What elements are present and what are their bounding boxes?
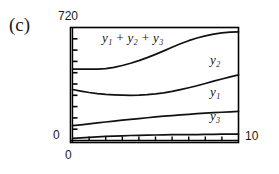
curve-label-sum: y₁ + y₂ + y₃ <box>102 30 163 46</box>
figure-panel-c: (c) 720 0 0 10 y₁ + y₂ + y₃ y₂ y₁ y₃ <box>0 0 279 174</box>
curve-label-y1: y₁ <box>210 84 220 100</box>
curve-label-y3: y₃ <box>210 108 220 124</box>
curve-label-y2: y₂ <box>210 52 220 68</box>
y-axis-ticks <box>73 39 78 129</box>
plot-area <box>0 0 279 174</box>
